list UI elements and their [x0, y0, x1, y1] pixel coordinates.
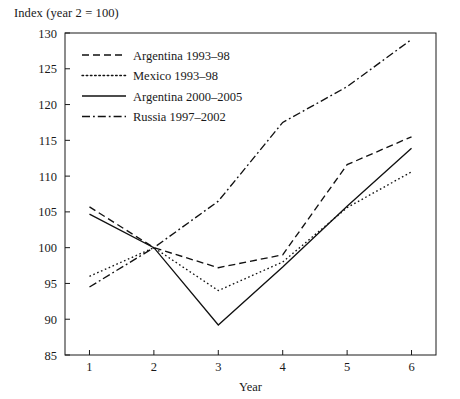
series-line — [89, 148, 411, 325]
y-tick-label: 85 — [45, 349, 58, 363]
y-tick-label: 95 — [45, 277, 58, 291]
plot-frame — [65, 33, 436, 355]
legend-label: Argentina 1993–98 — [133, 49, 230, 63]
series-line — [89, 172, 411, 291]
y-tick-label: 90 — [45, 313, 58, 327]
x-tick-label: 2 — [151, 360, 157, 374]
x-tick-label: 4 — [280, 360, 287, 374]
x-tick-label: 6 — [408, 360, 414, 374]
y-tick-label: 120 — [38, 98, 57, 112]
legend-label: Argentina 2000–2005 — [133, 90, 242, 104]
legend: Argentina 1993–98Mexico 1993–98Argentina… — [82, 49, 242, 125]
y-tick-label: 125 — [38, 62, 57, 76]
legend-label: Mexico 1993–98 — [133, 69, 218, 83]
y-tick-label: 115 — [39, 134, 57, 148]
x-axis-title: Year — [239, 380, 263, 394]
series-line — [89, 137, 411, 268]
y-tick-label: 130 — [38, 27, 57, 41]
x-tick-label: 1 — [86, 360, 92, 374]
x-axis: 123456 — [86, 350, 414, 374]
y-tick-label: 100 — [38, 241, 57, 255]
y-tick-label: 110 — [39, 170, 57, 184]
legend-label: Russia 1997–2002 — [133, 110, 226, 124]
chart-container: Index (year 2 = 100) 8590951001051101151… — [0, 0, 460, 399]
line-chart-plot: 859095100105110115120125130123456YearArg… — [0, 0, 460, 399]
y-tick-label: 105 — [38, 205, 57, 219]
x-tick-label: 5 — [344, 360, 350, 374]
x-tick-label: 3 — [215, 360, 221, 374]
